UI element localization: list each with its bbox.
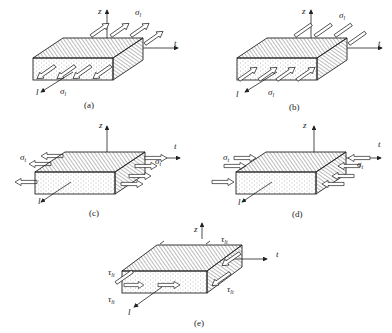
panel-a: [33, 10, 178, 92]
axis-label-z-d: z: [302, 120, 307, 130]
caption-a: (a): [84, 100, 94, 110]
stress-label-e-front: τlt: [108, 294, 115, 305]
axis-label-t-d: t: [378, 139, 381, 149]
axis-label-z-a: z: [97, 6, 102, 16]
axis-label-z-c: z: [98, 120, 103, 130]
axis-label-l-b: l: [236, 89, 239, 99]
axis-label-t-a: t: [174, 38, 177, 48]
stress-label-e-left: τlt: [108, 267, 115, 278]
panel-d: [212, 126, 381, 202]
stress-label-c-left: σt: [20, 152, 26, 163]
stress-label-a-front: σl: [60, 86, 66, 97]
axis-label-l-e: l: [128, 307, 131, 317]
caption-e: (e): [194, 318, 204, 328]
caption-b: (b): [289, 102, 300, 112]
axis-label-z-b: z: [301, 6, 306, 16]
axis-label-t-e: t: [276, 249, 279, 259]
axis-label-t-b: t: [378, 38, 381, 48]
stress-label-a-top: σl: [135, 7, 141, 18]
stress-label-e-right: τlt: [227, 284, 234, 295]
stress-label-e-top: τlt: [221, 234, 228, 245]
stress-label-d-left: σt: [223, 152, 229, 163]
caption-c: (c): [89, 208, 99, 218]
panel-e: [115, 223, 267, 307]
axis-label-t-c: t: [174, 141, 177, 151]
composite-loading-diagram: z t l σl σl (a) z t l σl σl (b): [0, 0, 392, 333]
stress-label-d-right: σt: [357, 159, 363, 170]
stress-label-b-front: σl: [268, 87, 274, 98]
axis-label-l-a: l: [36, 87, 39, 97]
axis-label-l-d: l: [238, 197, 241, 207]
panel-b: [237, 10, 382, 92]
axis-label-z-e: z: [193, 224, 198, 234]
caption-d: (d): [292, 209, 303, 219]
axis-label-l-c: l: [38, 196, 41, 206]
stress-label-b-top: σl: [339, 10, 345, 21]
